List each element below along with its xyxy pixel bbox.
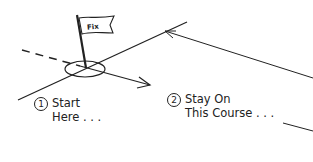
step-2-line2: This Course . . .: [167, 107, 274, 120]
course-diagram: Fix: [0, 0, 313, 162]
step-1-label: 1Start Here . . .: [34, 97, 101, 124]
step-2-line1: Stay On: [185, 92, 231, 106]
incoming-arrow: [165, 31, 313, 78]
arrowhead-icon: [165, 31, 176, 38]
step-1-number: 1: [34, 97, 48, 111]
course-line: [18, 22, 187, 100]
departure-arrow: [80, 66, 150, 85]
flag-label: Fix: [87, 23, 100, 32]
step-2-label: 2Stay On This Course . . .: [167, 93, 274, 120]
step-1-line2: Here . . .: [34, 111, 101, 124]
parallel-line-segment: [283, 123, 313, 131]
step-2-number: 2: [167, 93, 181, 107]
step-1-line1: Start: [52, 96, 80, 110]
